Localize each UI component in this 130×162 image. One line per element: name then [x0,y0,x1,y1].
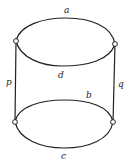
node-bottom-right [111,120,116,125]
edge-c [15,122,113,148]
label-b: b [86,90,92,100]
node-bottom-left [13,120,18,125]
label-p: p [6,77,12,87]
node-top-left [14,39,19,44]
label-c: c [61,151,66,161]
edge-b [15,100,113,122]
label-a: a [64,5,69,15]
edge-a [16,18,115,44]
label-q: q [118,79,124,89]
edge-p [15,41,16,122]
label-d: d [58,70,64,80]
node-top-right [113,42,118,47]
graph-diagram: a d p q b c [0,0,130,162]
edge-d [16,41,115,66]
edge-q [113,44,115,122]
